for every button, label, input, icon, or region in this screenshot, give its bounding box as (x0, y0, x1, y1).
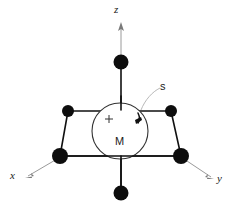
axis-y-line (184, 159, 211, 177)
axis-x (25, 159, 57, 178)
axis-label-x: x (10, 170, 15, 181)
axis-x-line (28, 159, 57, 176)
ligand-axial-top (114, 55, 129, 70)
axis-label-y: y (217, 173, 222, 184)
spin-label: s (160, 81, 166, 92)
ligand-axial-bottom (114, 186, 129, 201)
axis-label-z: z (114, 4, 118, 15)
figure-canvas (0, 0, 236, 204)
ligand-equatorial-front-left (52, 148, 68, 164)
ligand-equatorial-front-right (173, 148, 189, 164)
axis-y (184, 159, 214, 179)
metal-center-label: M (115, 136, 124, 147)
spin-label-leader-line (141, 88, 160, 110)
metal-center-circle (92, 103, 148, 159)
octahedral-complex-figure: z x y s M (0, 0, 236, 204)
ligand-equatorial-back-left (62, 105, 74, 117)
ligand-equatorial-back-right (165, 105, 177, 117)
